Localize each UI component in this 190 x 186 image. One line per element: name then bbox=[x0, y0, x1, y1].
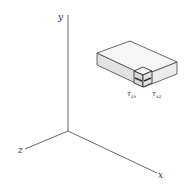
stress-diagram: y z x τzx τxz bbox=[0, 0, 190, 186]
y-axis-label: y bbox=[57, 12, 64, 22]
x-axis bbox=[68, 131, 157, 173]
coordinate-axes bbox=[25, 15, 157, 173]
z-axis-label: z bbox=[17, 145, 23, 155]
tau-zx-label: τzx bbox=[127, 90, 137, 99]
x-axis-label: x bbox=[158, 170, 163, 180]
stress-element-cube bbox=[134, 67, 152, 87]
z-axis bbox=[25, 131, 68, 149]
tau-xz-label: τxz bbox=[152, 90, 162, 99]
